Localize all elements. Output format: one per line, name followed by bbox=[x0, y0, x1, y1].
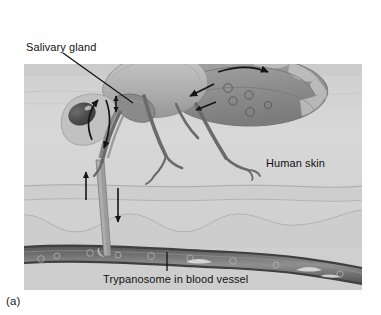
label-salivary-gland: Salivary gland bbox=[26, 41, 97, 53]
epidermis-layer bbox=[24, 185, 362, 202]
label-human-skin: Human skin bbox=[266, 157, 325, 169]
label-trypanosome-in-blood-vessel: Trypanosome in blood vessel bbox=[103, 273, 248, 285]
figure-panel-label: (a) bbox=[6, 295, 20, 307]
figure-panel: Salivary gland Human skin Trypanosome in… bbox=[0, 0, 381, 315]
